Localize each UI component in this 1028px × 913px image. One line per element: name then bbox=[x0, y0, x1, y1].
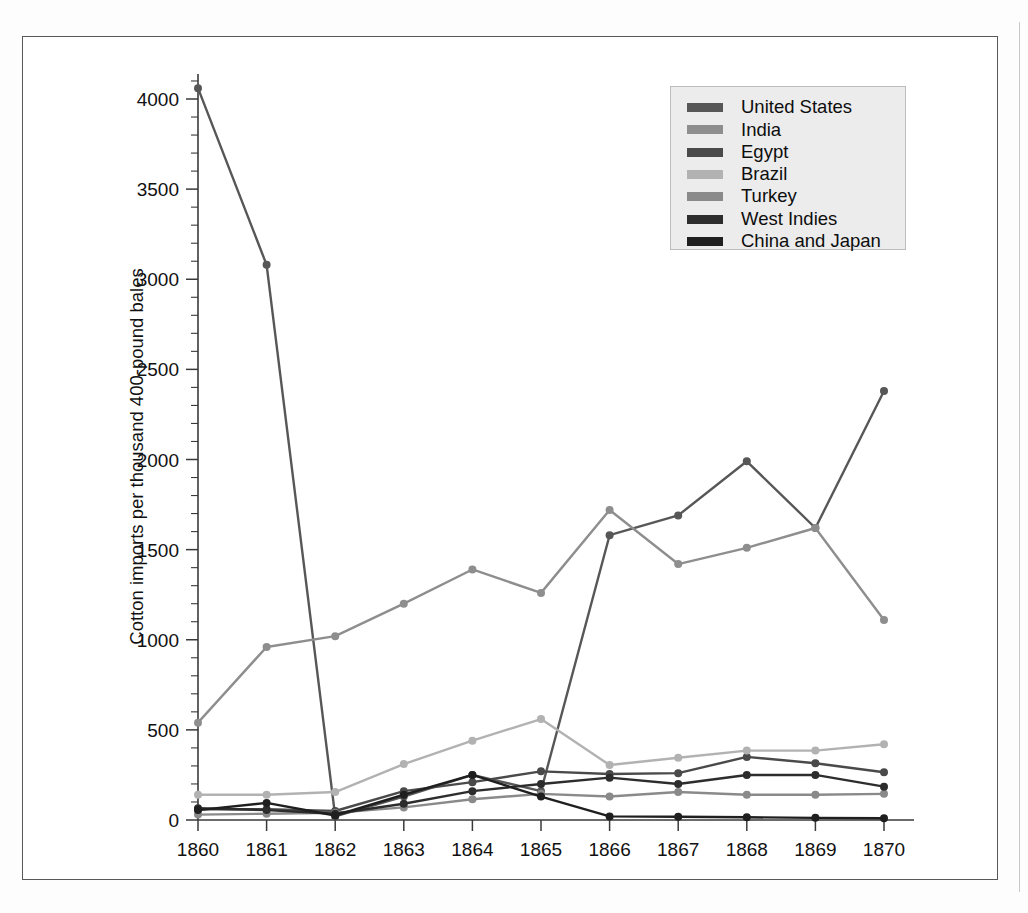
series-point bbox=[743, 771, 751, 779]
legend-item-china-and-japan[interactable]: China and Japan bbox=[687, 230, 881, 253]
x-tick-label: 1864 bbox=[451, 839, 494, 860]
series-point bbox=[400, 791, 408, 799]
x-tick-label: 1867 bbox=[657, 839, 699, 860]
series-point bbox=[400, 600, 408, 608]
series-point bbox=[811, 791, 819, 799]
legend-item-turkey[interactable]: Turkey bbox=[687, 185, 797, 208]
legend-swatch-icon bbox=[687, 215, 723, 224]
series-point bbox=[331, 811, 339, 819]
series-point bbox=[537, 589, 545, 597]
series-point bbox=[400, 800, 408, 808]
series-point bbox=[468, 771, 476, 779]
series-point bbox=[468, 795, 476, 803]
series-point bbox=[194, 806, 202, 814]
series-point bbox=[606, 761, 614, 769]
x-tick-label: 1868 bbox=[726, 839, 768, 860]
x-axis: 1860186118621863186418651866186718681869… bbox=[177, 820, 914, 860]
series-point bbox=[880, 768, 888, 776]
series-point bbox=[880, 740, 888, 748]
series-point bbox=[263, 806, 271, 814]
series-point bbox=[468, 787, 476, 795]
y-tick-label: 0 bbox=[168, 810, 179, 831]
series-point bbox=[811, 747, 819, 755]
series-point bbox=[400, 760, 408, 768]
series-point bbox=[880, 616, 888, 624]
series-point bbox=[194, 84, 202, 92]
series-point bbox=[880, 783, 888, 791]
legend-swatch-icon bbox=[687, 148, 723, 157]
series-point bbox=[674, 754, 682, 762]
y-axis-title-text: Cotton imports per thousand 400-pound ba… bbox=[126, 268, 147, 644]
series-point bbox=[331, 788, 339, 796]
x-tick-label: 1869 bbox=[794, 839, 836, 860]
series-point bbox=[743, 457, 751, 465]
y-tick-label: 4000 bbox=[137, 89, 179, 110]
series-point bbox=[468, 737, 476, 745]
series-point bbox=[811, 524, 819, 532]
series-point bbox=[537, 767, 545, 775]
series-point bbox=[263, 261, 271, 269]
legend-item-united-states[interactable]: United States bbox=[687, 96, 852, 119]
legend-item-label: China and Japan bbox=[741, 232, 881, 251]
series-point bbox=[606, 531, 614, 539]
legend-item-label: Brazil bbox=[741, 165, 787, 184]
legend-item-label: West Indies bbox=[741, 210, 837, 229]
series-point bbox=[811, 759, 819, 767]
series-point bbox=[674, 511, 682, 519]
x-tick-label: 1863 bbox=[383, 839, 425, 860]
series-point bbox=[468, 565, 476, 573]
legend-item-label: India bbox=[741, 121, 781, 140]
legend-swatch-icon bbox=[687, 103, 723, 112]
legend-item-india[interactable]: India bbox=[687, 118, 781, 141]
series-point bbox=[674, 788, 682, 796]
x-tick-label: 1865 bbox=[520, 839, 562, 860]
series-point bbox=[674, 560, 682, 568]
series-point bbox=[331, 632, 339, 640]
series-point bbox=[263, 799, 271, 807]
series-point bbox=[743, 791, 751, 799]
series-point bbox=[537, 793, 545, 801]
series-point bbox=[606, 774, 614, 782]
series-point bbox=[743, 747, 751, 755]
chart-legend: United StatesIndiaEgyptBrazilTurkeyWest … bbox=[670, 86, 906, 250]
x-tick-label: 1860 bbox=[177, 839, 219, 860]
series-point bbox=[263, 791, 271, 799]
x-tick-label: 1862 bbox=[314, 839, 356, 860]
series-point bbox=[674, 780, 682, 788]
series-point bbox=[194, 719, 202, 727]
series-point bbox=[674, 813, 682, 821]
series-point bbox=[743, 813, 751, 821]
series-point bbox=[606, 506, 614, 514]
series-point bbox=[468, 778, 476, 786]
series-point bbox=[880, 814, 888, 822]
series-point bbox=[194, 791, 202, 799]
legend-swatch-icon bbox=[687, 237, 723, 246]
legend-item-label: Egypt bbox=[741, 143, 788, 162]
page-background: 05001000150020002500300035004000 1860186… bbox=[0, 0, 1028, 913]
series-point bbox=[537, 715, 545, 723]
series-point bbox=[880, 790, 888, 798]
legend-item-brazil[interactable]: Brazil bbox=[687, 163, 787, 186]
y-tick-label: 3500 bbox=[137, 179, 179, 200]
legend-item-egypt[interactable]: Egypt bbox=[687, 141, 788, 164]
legend-item-west-indies[interactable]: West Indies bbox=[687, 208, 837, 231]
y-axis-title: Cotton imports per thousand 400-pound ba… bbox=[126, 268, 147, 644]
series-point bbox=[537, 780, 545, 788]
series-point bbox=[811, 771, 819, 779]
legend-swatch-icon bbox=[687, 192, 723, 201]
series-point bbox=[606, 793, 614, 801]
series-point bbox=[743, 544, 751, 552]
series-point bbox=[880, 387, 888, 395]
x-tick-label: 1861 bbox=[245, 839, 287, 860]
series-china-and-japan bbox=[194, 771, 888, 822]
series-india bbox=[194, 506, 888, 727]
legend-item-label: United States bbox=[741, 98, 852, 117]
series-point bbox=[606, 812, 614, 820]
x-tick-label: 1870 bbox=[863, 839, 905, 860]
y-tick-label: 500 bbox=[147, 720, 179, 741]
series-point bbox=[263, 643, 271, 651]
x-tick-label: 1866 bbox=[588, 839, 630, 860]
legend-swatch-icon bbox=[687, 125, 723, 134]
series-point bbox=[811, 814, 819, 822]
legend-swatch-icon bbox=[687, 170, 723, 179]
